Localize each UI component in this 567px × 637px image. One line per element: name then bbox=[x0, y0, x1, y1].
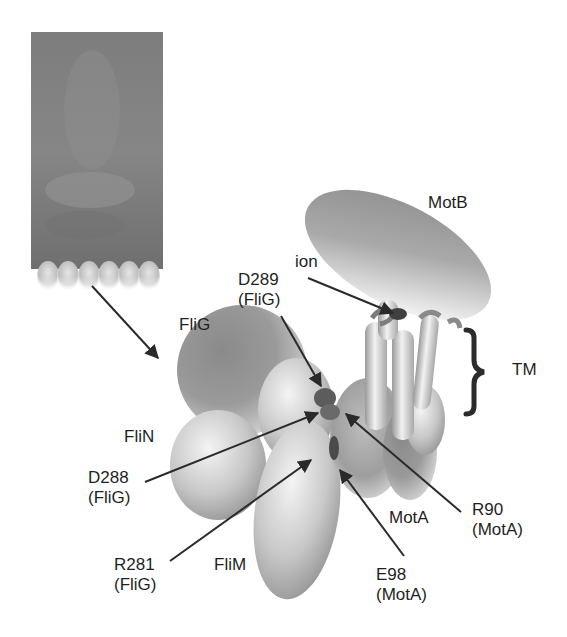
ion-shape bbox=[389, 308, 407, 320]
label-r281: R281 (FliG) bbox=[114, 555, 156, 595]
micrograph-inset bbox=[31, 32, 163, 292]
d289-residue: D289 bbox=[238, 270, 280, 290]
label-r90: R90 (MotA) bbox=[472, 500, 523, 540]
tm-helices bbox=[365, 300, 460, 440]
r90-residue: R90 bbox=[472, 500, 523, 520]
label-d288: D288 (FliG) bbox=[88, 468, 130, 508]
d288-site bbox=[320, 404, 340, 420]
inset-arrow bbox=[92, 286, 158, 358]
d288-residue: D288 bbox=[88, 468, 130, 488]
label-e98: E98 (MotA) bbox=[376, 565, 427, 605]
r281-residue: R281 bbox=[114, 555, 156, 575]
label-flim: FliM bbox=[214, 555, 246, 575]
figure-stage: MotB ion TM FliG FliN FliM MotA D289 (Fl… bbox=[0, 0, 567, 637]
r281-protein: (FliG) bbox=[114, 575, 156, 595]
label-flig: FliG bbox=[179, 315, 210, 335]
label-mota: MotA bbox=[389, 508, 429, 528]
label-ion: ion bbox=[295, 252, 318, 272]
diagram-artwork bbox=[0, 0, 567, 637]
e98-protein: (MotA) bbox=[376, 585, 427, 605]
label-d289: D289 (FliG) bbox=[238, 270, 280, 310]
label-motb: MotB bbox=[428, 193, 468, 213]
d288-protein: (FliG) bbox=[88, 488, 130, 508]
label-flin: FliN bbox=[124, 427, 154, 447]
e98-site bbox=[329, 436, 339, 460]
e98-residue: E98 bbox=[376, 565, 427, 585]
r90-protein: (MotA) bbox=[472, 520, 523, 540]
d289-protein: (FliG) bbox=[238, 290, 280, 310]
label-tm: TM bbox=[512, 360, 537, 380]
tm-bracket bbox=[466, 330, 484, 414]
